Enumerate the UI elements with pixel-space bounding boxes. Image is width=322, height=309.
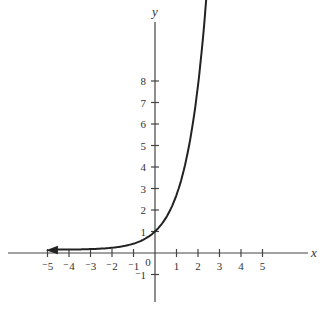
y-tick-label: 4 bbox=[141, 161, 147, 173]
y-tick-label: 6 bbox=[141, 118, 147, 130]
y-tick-label: 8 bbox=[141, 75, 147, 87]
x-tick-label: 1 bbox=[174, 260, 180, 272]
x-tick-label: 3 bbox=[217, 260, 223, 272]
x-tick-label: 5 bbox=[260, 260, 266, 272]
y-tick-label: 2 bbox=[141, 204, 147, 216]
exponential-graph: ⁻5⁻4⁻3⁻2⁻112345 ⁻112345678 0 x y bbox=[0, 0, 322, 309]
y-tick-label: 3 bbox=[141, 183, 147, 195]
x-tick-label: ⁻2 bbox=[106, 260, 118, 272]
y-tick-label: 1 bbox=[141, 226, 147, 238]
x-tick-label: 4 bbox=[238, 260, 244, 272]
x-tick-label: ⁻4 bbox=[63, 260, 75, 272]
y-tick-label: 7 bbox=[141, 97, 147, 109]
x-tick-label: ⁻3 bbox=[85, 260, 97, 272]
x-tick-label: 2 bbox=[195, 260, 201, 272]
y-axis-label: y bbox=[150, 4, 158, 19]
y-tick-label: ⁻1 bbox=[135, 269, 147, 281]
y-tick-label: 5 bbox=[141, 140, 147, 152]
origin-label: 0 bbox=[145, 256, 151, 268]
x-tick-label: ⁻5 bbox=[42, 260, 54, 272]
exponential-curve bbox=[54, 0, 207, 250]
x-axis-label: x bbox=[310, 245, 317, 260]
